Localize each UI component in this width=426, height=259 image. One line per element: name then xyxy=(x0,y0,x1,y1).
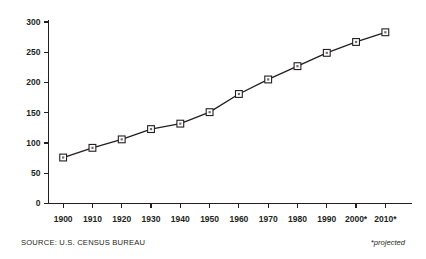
x-tick-label: 1950 xyxy=(200,214,219,224)
data-point-marker xyxy=(206,109,213,116)
data-series-group xyxy=(60,29,389,161)
marker-center-dot xyxy=(62,156,64,158)
chart-page: 050100150200250300 190019101920193019401… xyxy=(0,0,426,259)
marker-center-dot xyxy=(121,138,123,140)
x-tick-label: 1920 xyxy=(112,214,131,224)
x-axis-group: 1900191019201930194019501960197019801990… xyxy=(49,204,413,224)
marker-center-dot xyxy=(179,123,181,125)
x-tick-label: 1990 xyxy=(317,214,336,224)
marker-center-dot xyxy=(326,52,328,54)
data-point-marker xyxy=(60,154,67,161)
x-tick-label: 1980 xyxy=(288,214,307,224)
y-tick-label: 100 xyxy=(26,138,40,148)
x-tick-labels: 1900191019201930194019501960197019801990… xyxy=(54,214,397,224)
population-series-line xyxy=(63,32,385,157)
y-tick-label: 250 xyxy=(26,47,40,57)
data-point-marker xyxy=(89,144,96,151)
projected-footnote: *projected xyxy=(371,238,405,247)
x-tick-label: 1930 xyxy=(142,214,161,224)
x-tick-label: 1960 xyxy=(229,214,248,224)
y-tick-label: 150 xyxy=(26,108,40,118)
marker-center-dot xyxy=(238,93,240,95)
marker-center-dot xyxy=(209,111,211,113)
y-tick-label: 300 xyxy=(26,17,40,27)
data-point-marker xyxy=(323,49,330,56)
x-tick-label: 2000* xyxy=(345,214,368,224)
y-tick-labels: 050100150200250300 xyxy=(26,17,40,209)
marker-center-dot xyxy=(91,147,93,149)
x-tick-label: 1970 xyxy=(259,214,278,224)
x-tick-label: 1900 xyxy=(54,214,73,224)
data-point-marker xyxy=(177,120,184,127)
data-point-marker xyxy=(353,39,360,46)
source-note: SOURCE: U.S. CENSUS BUREAU xyxy=(21,238,145,247)
data-point-marker xyxy=(382,29,389,36)
data-point-marker xyxy=(148,126,155,133)
y-axis-group: 050100150200250300 xyxy=(26,17,48,209)
marker-center-dot xyxy=(150,128,152,130)
marker-center-dot xyxy=(267,78,269,80)
x-tick-label: 1940 xyxy=(171,214,190,224)
data-point-marker xyxy=(265,76,272,83)
marker-center-dot xyxy=(355,41,357,43)
data-point-marker xyxy=(118,136,125,143)
y-tick-label: 50 xyxy=(31,168,41,178)
data-point-marker xyxy=(236,91,243,98)
y-tick-label: 200 xyxy=(26,77,40,87)
x-tick-label: 2010* xyxy=(374,214,397,224)
marker-center-dot xyxy=(296,65,298,67)
data-point-marker xyxy=(294,63,301,70)
y-tick-label: 0 xyxy=(36,198,41,208)
population-line-chart: 050100150200250300 190019101920193019401… xyxy=(0,0,426,259)
marker-center-dot xyxy=(384,31,386,33)
x-tick-label: 1910 xyxy=(83,214,102,224)
